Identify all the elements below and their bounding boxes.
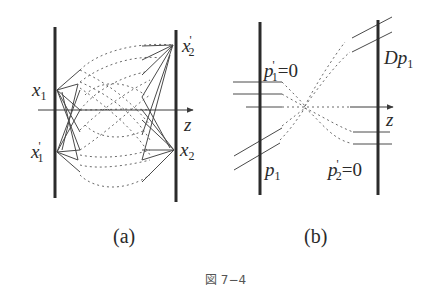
panel-b: p'1=0 p1 Dp1 p'2=0 z (b) xyxy=(233,17,413,248)
label-p1: p1 xyxy=(263,159,281,183)
panel-b-dashed-rays xyxy=(280,42,353,143)
label-x1-prime: x'1 xyxy=(30,139,44,165)
label-p2-prime-eq-0: p'2=0 xyxy=(326,157,362,183)
label-Dp1: Dp1 xyxy=(383,47,413,71)
label-p1-prime-eq-0: p'1=0 xyxy=(262,58,298,84)
panel-b-input-ray-4 xyxy=(234,128,282,156)
label-z-axis-a: z xyxy=(183,114,192,135)
label-x1: x1 xyxy=(31,79,46,103)
panel-a-rays-to-x2 xyxy=(142,55,174,182)
panel-a-rays-from-x1-prime xyxy=(57,90,80,172)
label-x2: x2 xyxy=(179,139,194,163)
optics-diagram-figure: x1 x'1 x'2 x2 z (a) xyxy=(0,0,439,302)
panel-label-b: (b) xyxy=(304,225,327,248)
label-z-axis-b: z xyxy=(385,109,394,130)
figure-caption: 図 7−4 xyxy=(205,273,246,287)
panel-label-a: (a) xyxy=(113,225,135,248)
panel-a: x1 x'1 x'2 x2 z (a) xyxy=(30,27,195,248)
label-x2-prime: x'2 xyxy=(181,33,195,59)
